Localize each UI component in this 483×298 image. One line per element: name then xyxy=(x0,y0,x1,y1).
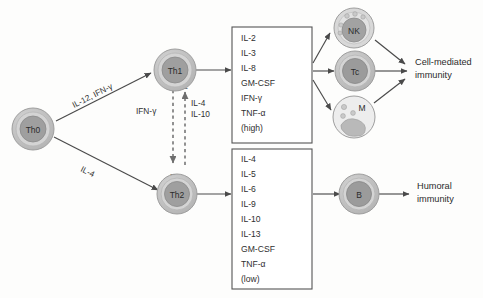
outcome-line2: immunity xyxy=(415,70,452,80)
immunology-diagram: IL-12, IFN-γ IL-4 – IFN-γ – IL-4 IL-10 xyxy=(0,0,483,298)
macrophage-vacuole xyxy=(341,104,346,109)
cytokine-item: IL-6 xyxy=(241,184,256,194)
edge-box1-to-nk xyxy=(313,33,330,63)
edge-label-th0-th2: IL-4 xyxy=(79,164,97,180)
cytokine-item: IL-10 xyxy=(241,214,261,224)
outcome-cell-mediated: Cell-mediated immunity xyxy=(415,57,472,80)
cytokine-item: IL-13 xyxy=(241,229,261,239)
outcome-line1: Cell-mediated xyxy=(415,57,472,67)
cell-label-m: M xyxy=(358,103,365,113)
cytokine-item: TNF-α xyxy=(241,259,266,269)
cell-macrophage: M xyxy=(333,96,375,138)
edge-nk-to-outcome xyxy=(375,40,405,64)
cytokine-item: GM-CSF xyxy=(241,78,275,88)
cytokine-item: IL-8 xyxy=(241,63,256,73)
nk-granule xyxy=(361,15,365,19)
nk-granule xyxy=(353,12,358,17)
cell-th1: Th1 xyxy=(154,49,196,91)
inhibition-label-ifng: IFN-γ xyxy=(136,106,157,116)
inhibition-th2-to-th1: – IL-4 IL-10 xyxy=(182,83,210,165)
edge-box1-to-m xyxy=(313,80,331,110)
cytokine-item: IL-5 xyxy=(241,169,256,179)
cell-label-th2: Th2 xyxy=(170,190,185,200)
inhibition-label-il10: IL-10 xyxy=(191,109,210,119)
cell-label-tc: Tc xyxy=(351,67,360,77)
cytokine-item: IFN-γ xyxy=(241,93,263,103)
nk-granule xyxy=(338,31,342,35)
outcome-line1: Humoral xyxy=(417,181,452,191)
cytokine-item: (high) xyxy=(241,123,263,133)
macrophage-vacuole xyxy=(351,111,356,116)
nk-granule xyxy=(345,14,350,19)
diagram-canvas: IL-12, IFN-γ IL-4 – IFN-γ – IL-4 IL-10 xyxy=(0,0,483,298)
edge-th0-to-th2: IL-4 xyxy=(54,137,158,190)
cytokine-item: IL-2 xyxy=(241,33,256,43)
cell-label-th1: Th1 xyxy=(168,66,183,76)
cytokine-item: IL-4 xyxy=(241,154,256,164)
edge-m-to-outcome xyxy=(374,79,405,103)
cell-tc: Tc xyxy=(335,51,375,91)
cell-label-th0: Th0 xyxy=(26,125,41,135)
cytokine-item: GM-CSF xyxy=(241,244,275,254)
cytokine-item: IL-3 xyxy=(241,48,256,58)
outcome-humoral: Humoral immunity xyxy=(417,181,454,204)
inhibition-label-il4: IL-4 xyxy=(191,98,206,108)
cytokine-item: TNF-α xyxy=(241,108,266,118)
cytokine-item: (low) xyxy=(241,274,260,284)
nk-granule xyxy=(339,23,343,27)
cell-th2: Th2 xyxy=(157,174,197,214)
cell-label-nk: NK xyxy=(348,26,360,36)
cytokine-item: IL-9 xyxy=(241,199,256,209)
cytokine-box-th1: IL-2 IL-3 IL-8 GM-CSF IFN-γ TNF-α (high) xyxy=(232,27,312,143)
cell-th0: Th0 xyxy=(12,108,54,150)
cell-label-b: B xyxy=(356,190,362,200)
inhibition-th1-to-th2: – IFN-γ xyxy=(136,90,176,179)
cell-nk: NK xyxy=(334,8,374,48)
cytokine-box-th2: IL-4 IL-5 IL-6 IL-9 IL-10 IL-13 GM-CSF T… xyxy=(232,149,312,289)
outcome-line2: immunity xyxy=(417,194,454,204)
cell-b: B xyxy=(339,174,379,214)
macrophage-vacuole xyxy=(341,114,346,119)
